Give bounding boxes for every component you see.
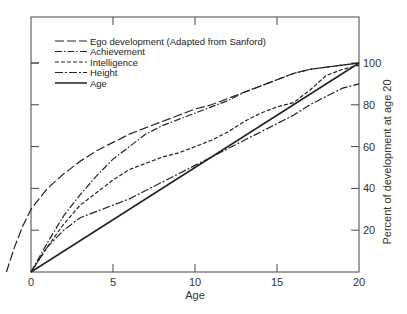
legend: Ego development (Adapted from Sanford)Ac…	[55, 36, 266, 89]
legend-label: Age	[90, 78, 107, 89]
y-axis: 20406080100	[31, 57, 381, 236]
legend-label: Height	[90, 67, 118, 78]
x-tick-label: 0	[28, 276, 34, 288]
chart: 05101520 20406080100 Ego development (Ad…	[0, 0, 407, 314]
y-tick-label: 80	[363, 99, 375, 111]
y-tick-label: 100	[363, 57, 381, 69]
y-tick-label: 20	[363, 224, 375, 236]
plot-frame	[31, 17, 359, 272]
y-axis-title: Percent of development at age 20	[381, 79, 393, 244]
x-tick-label: 5	[110, 276, 116, 288]
legend-label: Achievement	[90, 46, 145, 57]
series-line-3	[31, 84, 359, 272]
legend-label: Ego development (Adapted from Sanford)	[90, 36, 266, 47]
x-axis-title: Age	[185, 289, 205, 301]
x-tick-label: 15	[271, 276, 283, 288]
y-tick-label: 60	[363, 141, 375, 153]
legend-label: Intelligence	[90, 57, 138, 68]
plot-lines	[6, 63, 359, 272]
y-tick-label: 40	[363, 182, 375, 194]
x-tick-label: 20	[353, 276, 365, 288]
x-axis: 05101520	[28, 17, 365, 288]
series-line-0	[6, 63, 359, 272]
series-line-4	[31, 63, 359, 272]
x-tick-label: 10	[189, 276, 201, 288]
